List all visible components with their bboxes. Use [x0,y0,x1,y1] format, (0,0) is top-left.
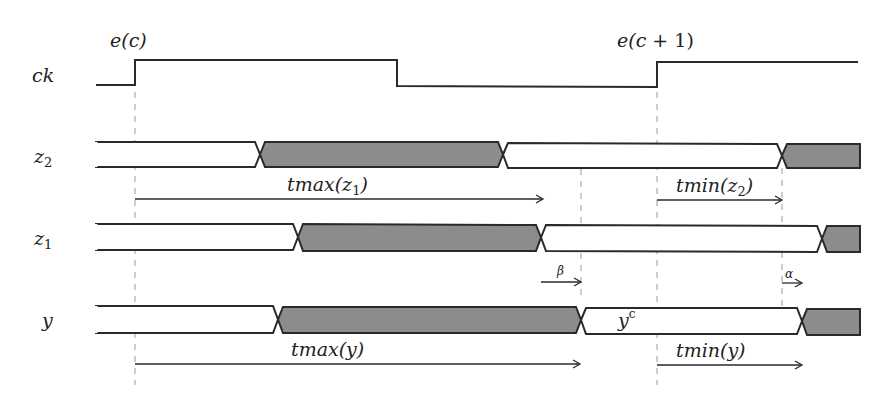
interval-alpha: α [782,267,802,283]
interval-beta: β [541,264,581,282]
z2-bus [96,142,860,168]
y-segment-empty [96,306,278,333]
event-label-e-c1: e(c + 1) [617,29,694,51]
interval-tmax-z1: tmax(z1) [135,173,543,199]
y-segment-current [581,308,802,334]
tmax-y-label: tmax(y) [291,338,364,360]
interval-tmax-y: tmax(y) [135,338,580,364]
signal-label-z1: z1 [33,227,52,252]
z1-segment-stable [822,226,860,252]
y-bus [96,306,860,335]
z2-segment-stable [782,144,860,168]
z1-segment-empty [96,224,298,250]
signal-label-y: y [41,309,53,331]
y-segment-stable [278,307,581,333]
z1-segment-stable [298,224,541,251]
signal-label-ck: ck [32,64,54,86]
tmax-z1-label: tmax(z1) [287,173,368,198]
ck-waveform [96,60,858,87]
tmin-z2-label: tmin(z2) [676,174,753,199]
event-label-e-c: e(c) [110,29,147,51]
z2-segment-empty [503,143,782,168]
beta-label: β [556,264,564,278]
z1-segment-empty [541,225,822,252]
interval-tmin-y: tmin(y) [657,339,802,365]
z2-segment-empty [96,142,260,167]
tmin-y-label: tmin(y) [676,339,746,361]
z1-bus [96,224,860,252]
timing-diagram: e(c) e(c + 1) ck z2 z1 y yc tmax(z1) tmi… [0,0,885,401]
z2-segment-stable [260,142,503,167]
alpha-label: α [785,267,793,281]
y-segment-stable [802,309,860,335]
interval-tmin-z2: tmin(z2) [657,174,782,200]
signal-label-z2: z2 [33,145,52,170]
